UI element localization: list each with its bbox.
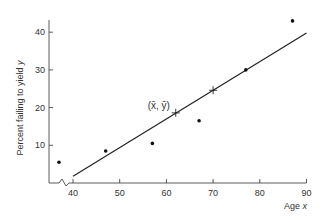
data-point [244,68,248,72]
x-tick-label: 70 [208,188,218,198]
data-point [197,119,201,123]
y-axis-label: Percent failing to yield y [15,60,25,156]
data-point [291,19,295,23]
x-axis-label: Age x [284,201,308,211]
x-tick-label: 80 [255,188,265,198]
x-tick-label: 90 [301,188,311,198]
regression-line [73,33,307,176]
data-point [151,142,155,146]
x-tick-label: 60 [161,188,171,198]
y-tick-label: 10 [35,140,45,150]
y-tick-label: 40 [35,27,45,37]
mean-point-annotation: (x̄, ȳ) [148,100,170,111]
data-point [57,160,61,164]
axes [49,20,307,186]
scatter-chart: 40506070809010203040 (x̄, ȳ) Age x Perce… [0,0,330,222]
x-tick-label: 40 [68,188,78,198]
y-tick-label: 30 [35,65,45,75]
y-tick-label: 20 [35,103,45,113]
x-tick-label: 50 [115,188,125,198]
data-points [57,19,294,164]
data-point [104,149,108,153]
